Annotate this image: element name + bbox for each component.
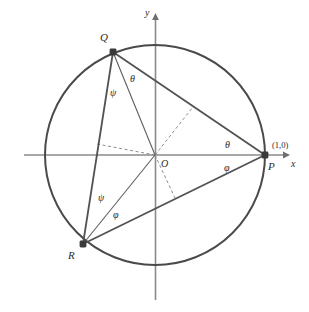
y-axis-arrowhead <box>152 13 159 20</box>
triangle-group <box>83 52 265 244</box>
point-marker-p <box>262 152 269 159</box>
origin-label-o: O <box>161 159 168 169</box>
angle-label-phi-at-r: φ <box>113 210 119 220</box>
y-axis-label: y <box>145 8 149 18</box>
chord-ro <box>83 155 155 244</box>
chord-qr <box>83 52 113 244</box>
dashed-line-to-qr <box>97 144 155 155</box>
angle-label-psi-at-q: ψ <box>110 88 116 98</box>
x-axis-arrowhead <box>283 152 290 159</box>
vertex-label-r: R <box>68 250 75 261</box>
radii-group <box>83 52 155 244</box>
geometry-figure: Q R P O (1,0) y x θ ψ ψ φ θ φ <box>0 0 309 312</box>
chord-rp <box>83 155 265 244</box>
angle-label-psi-at-r: ψ <box>98 193 104 203</box>
chord-qp <box>113 52 265 155</box>
x-axis-label: x <box>291 159 295 169</box>
angle-label-phi-at-p: φ <box>224 163 230 173</box>
vertex-label-q: Q <box>100 32 108 43</box>
vertex-label-p: P <box>268 161 275 172</box>
point-coordinate-label: (1,0) <box>272 141 288 150</box>
diagram-canvas <box>0 0 309 312</box>
dashed-line-to-qp <box>155 107 193 155</box>
angle-label-theta-at-p: θ <box>225 140 230 150</box>
angle-label-theta-at-q: θ <box>130 74 135 84</box>
axes-group <box>24 13 290 300</box>
vertex-markers-group <box>80 49 269 248</box>
chord-qo <box>113 52 155 155</box>
dashed-lines-group <box>97 107 193 198</box>
point-marker-q <box>110 49 117 56</box>
point-marker-r <box>80 241 87 248</box>
